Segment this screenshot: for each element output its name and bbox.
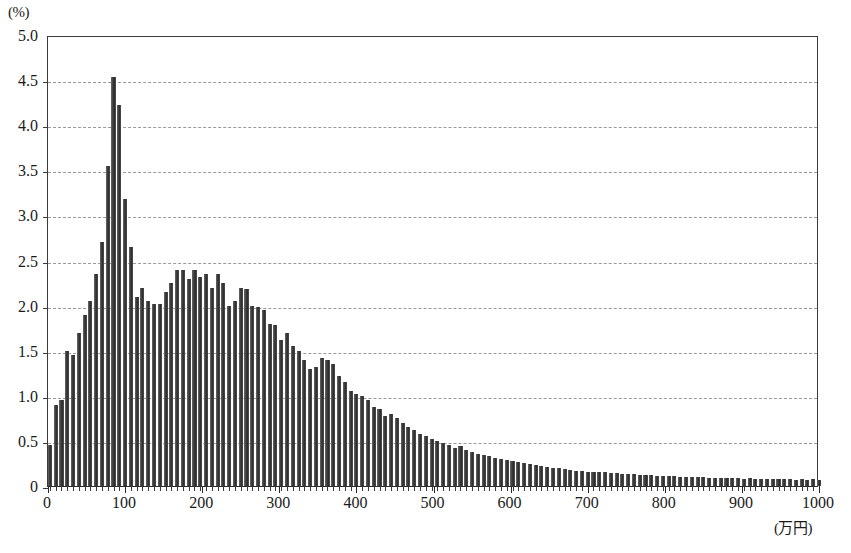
x-axis-minor-tick — [270, 486, 271, 491]
bar — [349, 391, 353, 486]
y-axis-tick-label: 1.0 — [0, 388, 38, 406]
bar — [713, 478, 717, 486]
bar — [615, 473, 619, 486]
bar — [77, 333, 81, 486]
x-axis-minor-tick — [715, 486, 716, 491]
bar — [470, 452, 474, 486]
x-axis-minor-tick — [90, 486, 91, 491]
bar — [233, 301, 237, 486]
x-axis-minor-tick — [634, 486, 635, 491]
x-axis-minor-tick — [345, 486, 346, 491]
x-axis-minor-tick — [339, 486, 340, 491]
x-axis-minor-tick — [114, 486, 115, 491]
x-axis-minor-tick — [299, 486, 300, 491]
bar — [273, 325, 277, 486]
bar — [661, 476, 665, 486]
bar — [302, 360, 306, 486]
bar — [609, 473, 613, 486]
bar — [54, 405, 58, 486]
x-axis-minor-tick — [599, 486, 600, 491]
x-axis-minor-tick — [767, 486, 768, 491]
x-axis-major-tick — [511, 486, 512, 493]
x-axis-minor-tick — [206, 486, 207, 491]
bar — [563, 469, 567, 486]
bar — [719, 478, 723, 486]
x-axis-minor-tick — [495, 486, 496, 491]
x-axis-minor-tick — [79, 486, 80, 491]
bar — [782, 479, 786, 486]
bar — [256, 307, 260, 486]
x-axis-minor-tick — [85, 486, 86, 491]
bar — [528, 464, 532, 486]
x-axis-minor-tick — [327, 486, 328, 491]
x-axis-minor-tick — [166, 486, 167, 491]
bar — [464, 450, 468, 486]
bar — [100, 242, 104, 486]
bar — [591, 472, 595, 486]
bar — [366, 400, 370, 486]
x-axis-minor-tick — [565, 486, 566, 491]
bar — [765, 479, 769, 486]
bar — [412, 430, 416, 486]
x-axis-minor-tick — [247, 486, 248, 491]
bar — [401, 423, 405, 486]
x-axis-minor-tick — [177, 486, 178, 491]
x-axis-major-tick — [742, 486, 743, 493]
x-axis-minor-tick — [426, 486, 427, 491]
bar — [192, 270, 196, 486]
x-axis-minor-tick — [119, 486, 120, 491]
x-axis-minor-tick — [437, 486, 438, 491]
bar — [354, 394, 358, 486]
x-axis-minor-tick — [391, 486, 392, 491]
bar — [117, 105, 121, 486]
bar — [435, 441, 439, 486]
bar — [418, 434, 422, 486]
bar — [597, 472, 601, 486]
x-axis-minor-tick — [541, 486, 542, 491]
y-axis-tick-label: 3.5 — [0, 162, 38, 180]
bar — [308, 369, 312, 486]
x-axis-minor-tick — [403, 486, 404, 491]
bar — [557, 468, 561, 486]
bar — [239, 288, 243, 486]
x-axis-minor-tick — [669, 486, 670, 491]
x-axis-minor-tick — [293, 486, 294, 491]
bar — [285, 333, 289, 486]
bar — [643, 475, 647, 486]
x-axis-minor-tick — [466, 486, 467, 491]
x-axis-minor-tick — [310, 486, 311, 491]
x-axis-minor-tick — [102, 486, 103, 491]
bar — [759, 479, 763, 486]
x-axis-minor-tick — [547, 486, 548, 491]
bar — [453, 448, 457, 486]
bar — [684, 477, 688, 486]
x-axis-minor-tick — [611, 486, 612, 491]
bar — [65, 351, 69, 486]
x-axis-tick-label: 800 — [652, 494, 676, 512]
y-axis-tick-label: 4.5 — [0, 72, 38, 90]
bar — [603, 472, 607, 486]
x-axis-minor-tick — [408, 486, 409, 491]
bar — [325, 360, 329, 486]
x-axis-minor-tick — [322, 486, 323, 491]
x-axis-minor-tick — [755, 486, 756, 491]
bar — [476, 454, 480, 486]
bar — [360, 396, 364, 486]
y-axis-tick-label: 5.0 — [0, 27, 38, 45]
x-axis-major-tick — [202, 486, 203, 493]
bar — [748, 478, 752, 486]
x-axis-minor-tick — [189, 486, 190, 491]
bar — [71, 355, 75, 486]
x-axis-minor-tick — [651, 486, 652, 491]
x-axis-minor-tick — [380, 486, 381, 491]
x-axis-major-tick — [48, 486, 49, 493]
x-axis-minor-tick — [171, 486, 172, 491]
x-axis-minor-tick — [212, 486, 213, 491]
x-axis-minor-tick — [200, 486, 201, 491]
bar — [539, 466, 543, 486]
y-axis-tick-label: 3.0 — [0, 207, 38, 225]
bar — [395, 418, 399, 486]
x-axis-minor-tick — [530, 486, 531, 491]
x-axis-minor-tick — [750, 486, 751, 491]
bar — [430, 439, 434, 486]
